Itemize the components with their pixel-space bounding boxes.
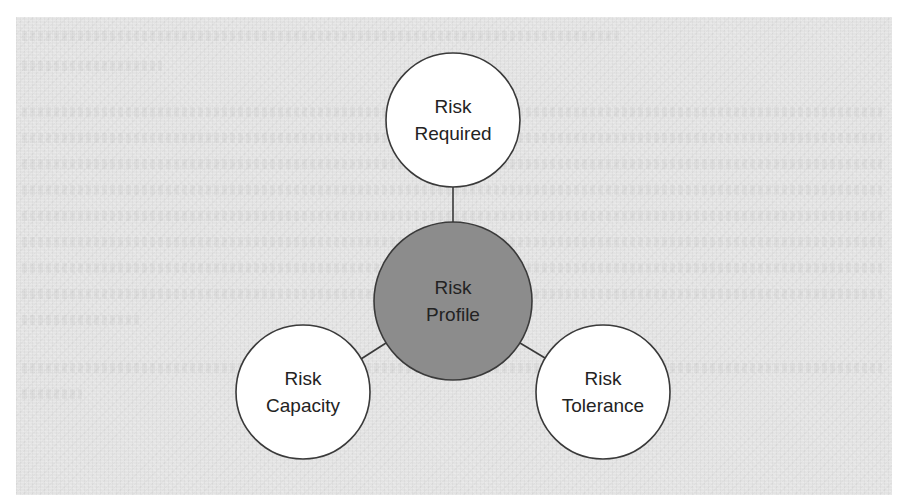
risk-profile-diagram [0,0,904,503]
label-line-1: Risk [266,365,340,392]
label-risk-required: Risk Required [414,93,491,147]
label-line-2: Profile [426,301,480,328]
label-line-1: Risk [562,365,644,392]
label-risk-tolerance: Risk Tolerance [562,365,644,419]
connector-capacity [361,343,386,359]
label-risk-profile: Risk Profile [426,274,480,328]
label-risk-capacity: Risk Capacity [266,365,340,419]
label-line-2: Tolerance [562,392,644,419]
label-line-1: Risk [414,93,491,120]
label-line-2: Capacity [266,392,340,419]
connector-tolerance [520,343,545,358]
label-line-1: Risk [426,274,480,301]
label-line-2: Required [414,120,491,147]
